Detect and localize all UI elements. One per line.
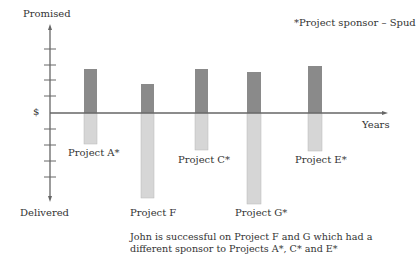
- sponsor-note: *Project sponsor – Spud: [294, 17, 416, 28]
- bar-promised-project-c: [195, 69, 208, 113]
- y-axis-arrow-up-icon: [48, 24, 52, 30]
- bar-delivered-project-g: [247, 113, 261, 204]
- x-axis-arrow-right-icon: [382, 111, 388, 115]
- bar-delivered-project-f: [141, 113, 154, 198]
- bars: [84, 66, 322, 204]
- label-project-f: Project F: [130, 207, 176, 218]
- label-project-g: Project G*: [235, 207, 287, 218]
- bar-delivered-project-e: [308, 113, 322, 151]
- bar-promised-project-e: [308, 66, 322, 113]
- label-project-a: Project A*: [68, 147, 120, 158]
- y-label-delivered: Delivered: [20, 207, 69, 218]
- caption-line-2: different sponsor to Projects A*, C* and…: [130, 243, 338, 254]
- bar-delivered-project-a: [84, 113, 97, 144]
- zero-label-dollar: $: [33, 106, 39, 117]
- bar-promised-project-f: [141, 84, 154, 113]
- caption-line-1: John is successful on Project F and G wh…: [130, 231, 372, 242]
- label-project-e: Project E*: [295, 154, 347, 165]
- bar-promised-project-g: [247, 72, 261, 113]
- label-project-c: Project C*: [178, 154, 230, 165]
- x-label-years: Years: [362, 119, 390, 130]
- y-axis-arrow-down-icon: [48, 196, 52, 202]
- bar-promised-project-a: [84, 69, 97, 113]
- y-label-promised: Promised: [23, 8, 71, 19]
- bar-delivered-project-c: [195, 113, 208, 150]
